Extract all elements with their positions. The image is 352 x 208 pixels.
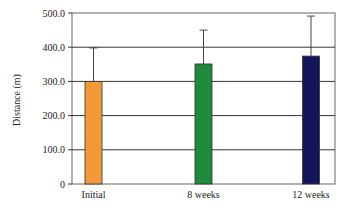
- y-tick-label: 500.0: [43, 8, 66, 19]
- bar-8-weeks: [195, 64, 212, 184]
- y-tick-label: 200.0: [43, 110, 66, 121]
- y-axis-ticks: 0100.0200.0300.0400.0500.0: [43, 8, 66, 190]
- bar-initial: [85, 81, 102, 184]
- y-tick-label: 100.0: [43, 144, 66, 155]
- x-tick-label: 8 weeks: [187, 189, 220, 200]
- bar-chart: 0100.0200.0300.0400.0500.0 Initial8 week…: [0, 0, 352, 208]
- bar-12-weeks: [303, 56, 320, 184]
- y-tick-label: 400.0: [43, 42, 66, 53]
- y-tick-label: 0: [60, 179, 65, 190]
- x-axis-labels: Initial8 weeks12 weeks: [82, 189, 330, 200]
- x-tick-label: Initial: [82, 189, 106, 200]
- y-tick-label: 300.0: [43, 76, 66, 87]
- bars: [85, 16, 320, 184]
- y-axis-label: Distance (m): [11, 74, 23, 126]
- x-tick-label: 12 weeks: [292, 189, 330, 200]
